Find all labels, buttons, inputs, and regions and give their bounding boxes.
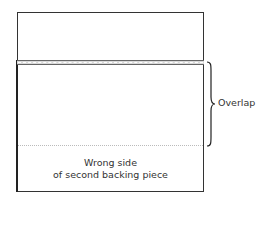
wrong-side-label-line2: of second backing piece bbox=[17, 169, 204, 181]
wrong-side-label-line1: Wrong side bbox=[17, 157, 204, 169]
stitch-line bbox=[18, 62, 203, 63]
overlap-label: Overlap bbox=[218, 97, 255, 108]
overlap-brace-icon bbox=[206, 61, 216, 147]
overlap-boundary-line bbox=[18, 145, 203, 146]
wrong-side-label: Wrong side of second backing piece bbox=[17, 157, 204, 181]
